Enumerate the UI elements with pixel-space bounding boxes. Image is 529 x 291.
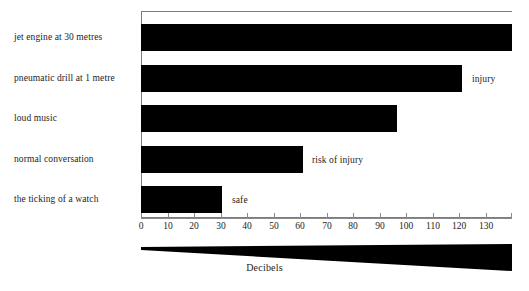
x-tick-label-40: 40 [242,221,252,231]
annotation-risk-of-injury: risk of injury [312,155,363,165]
category-label-2: loud music [14,114,57,124]
x-tick-label-0: 0 [139,221,144,231]
x-tick-label-90: 90 [375,221,385,231]
annotation-safe: safe [232,195,248,205]
x-tick-50 [274,213,275,219]
x-tick-20 [194,213,195,219]
x-tick-label-10: 10 [163,221,173,231]
x-tick-90 [380,213,381,219]
x-tick-label-110: 110 [426,221,440,231]
category-label-3: normal conversation [14,155,94,165]
bar-pneumatic-drill [141,65,462,92]
x-tick-label-100: 100 [399,221,413,231]
x-tick-110 [433,213,434,219]
x-tick-80 [353,213,354,219]
x-tick-60 [300,213,301,219]
bar-jet-engine [141,24,512,51]
x-tick-label-30: 30 [216,221,226,231]
x-tick-40 [247,213,248,219]
x-axis-title: Decibels [0,262,529,273]
x-tick-120 [459,213,460,219]
x-tick-label-70: 70 [322,221,332,231]
x-tick-label-80: 80 [348,221,358,231]
x-tick-label-120: 120 [452,221,466,231]
category-label-1: pneumatic drill at 1 metre [14,74,115,84]
x-tick-10 [168,213,169,219]
bar-ticking-watch [141,186,222,213]
x-tick-30 [221,213,222,219]
category-axis-labels: jet engine at 30 metres pneumatic drill … [0,0,136,291]
bar-normal-conversation [141,146,303,173]
x-tick-label-20: 20 [189,221,199,231]
x-tick-140 [511,213,512,219]
chart-figure: jet engine at 30 metres pneumatic drill … [0,0,529,291]
bar-loud-music [141,105,397,132]
x-tick-0 [141,213,142,219]
x-tick-70 [327,213,328,219]
x-tick-label-130: 130 [479,221,493,231]
x-tick-130 [486,213,487,219]
x-tick-100 [406,213,407,219]
category-label-0: jet engine at 30 metres [14,33,102,43]
category-label-4: the ticking of a watch [14,195,99,205]
annotation-injury: injury [472,74,495,84]
x-tick-label-60: 60 [295,221,305,231]
x-tick-label-50: 50 [269,221,279,231]
